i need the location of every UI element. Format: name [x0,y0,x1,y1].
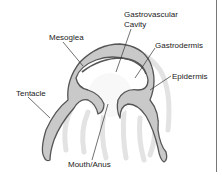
label-tentacle: Tentacle [16,89,46,98]
label-gastrodermis: Gastrodermis [155,41,203,50]
label-mouth-anus: Mouth/Anus [68,160,111,169]
diagram-canvas: Gastrovascular Cavity Mesoglea Gastroder… [0,0,222,178]
medusa-diagram: Gastrovascular Cavity Mesoglea Gastroder… [0,0,222,178]
label-cavity: Cavity [124,20,146,29]
label-gastrovascular: Gastrovascular [124,10,178,19]
label-epidermis: Epidermis [172,72,208,81]
label-mesoglea: Mesoglea [49,33,84,42]
